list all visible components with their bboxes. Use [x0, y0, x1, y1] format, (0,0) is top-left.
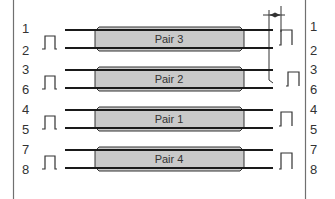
left-pin-2: 2	[22, 43, 29, 58]
square-pulse-icon	[286, 72, 299, 86]
right-pin-3: 3	[310, 62, 317, 77]
square-pulse-icon	[42, 36, 57, 49]
pair-label: Pair 2	[155, 73, 184, 85]
square-pulse-icon	[42, 76, 57, 89]
pair-label: Pair 4	[155, 153, 184, 165]
right-pin-2: 2	[310, 43, 317, 58]
square-pulse-icon	[279, 153, 292, 169]
square-pulse-icon	[279, 112, 292, 126]
left-pin-7: 7	[22, 142, 29, 157]
right-pin-4: 4	[310, 102, 317, 117]
left-pin-4: 4	[22, 102, 29, 117]
pair-label: Pair 1	[155, 113, 184, 125]
left-pin-8: 8	[22, 162, 29, 177]
pair-skew-diagram: 1 2 Pair 3 1 2 3 6 Pair 2 3 6 4 5	[0, 0, 335, 199]
left-pin-5: 5	[22, 122, 29, 137]
square-pulse-icon	[42, 116, 57, 129]
square-pulse-icon	[42, 156, 57, 169]
pair-row-1: 4 5 Pair 1 4 5	[22, 102, 317, 137]
pair-row-3: 1 2 Pair 3 1 2	[22, 19, 317, 58]
right-pin-6: 6	[310, 82, 317, 97]
left-pin-3: 3	[22, 62, 29, 77]
square-pulse-icon	[279, 30, 292, 45]
pair-row-2: 3 6 Pair 2 3 6	[22, 62, 317, 97]
left-pin-1: 1	[22, 21, 29, 36]
right-pin-5: 5	[310, 122, 317, 137]
pair-label: Pair 3	[155, 33, 184, 45]
right-pin-7: 7	[310, 142, 317, 157]
left-pin-6: 6	[22, 82, 29, 97]
skew-arrows-icon	[263, 6, 285, 83]
pair-row-4: 7 8 Pair 4 7 8	[22, 142, 317, 177]
right-pin-8: 8	[310, 162, 317, 177]
right-pin-1: 1	[310, 19, 317, 34]
